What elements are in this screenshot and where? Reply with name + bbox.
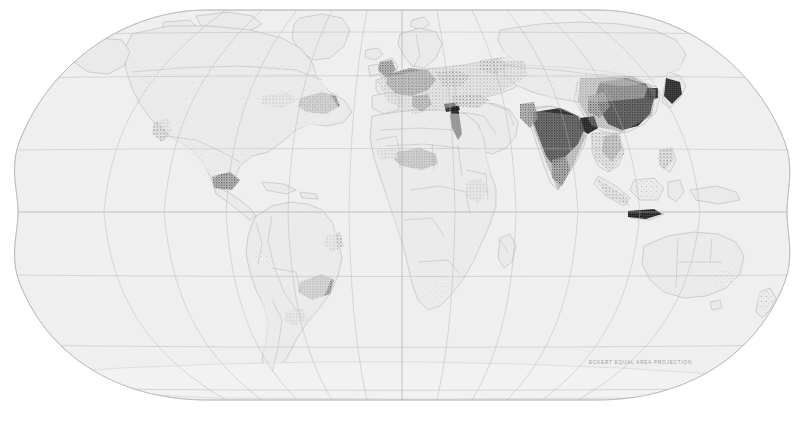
- world-map-figure: ECKERT EQUAL AREA PROJECTION: [0, 0, 803, 424]
- land-tasmania: [710, 300, 722, 310]
- map-canvas: [0, 0, 803, 424]
